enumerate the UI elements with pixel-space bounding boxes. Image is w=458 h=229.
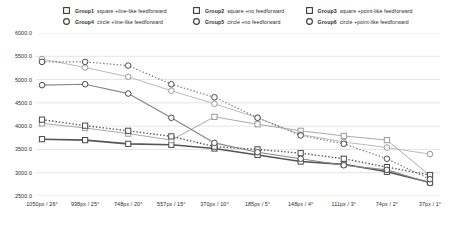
data-point xyxy=(39,59,45,65)
data-point xyxy=(125,91,131,97)
legend-desc-group1: square +line-like feedforward xyxy=(97,8,167,14)
line-chart: Group1 square +line-like feedforward Gro… xyxy=(0,0,458,229)
data-point xyxy=(83,123,88,128)
legend-label-group5: Group5 xyxy=(205,19,224,25)
data-point xyxy=(298,151,303,156)
chart-legend: Group1 square +line-like feedforward Gro… xyxy=(62,5,422,27)
series-line xyxy=(42,117,430,176)
y-tick-label: 6000.0 xyxy=(0,30,32,36)
legend-item-group4[interactable]: Group4 circle +line-like feedforward xyxy=(62,16,192,27)
data-point xyxy=(255,115,261,121)
x-tick-label: 370px / 10° xyxy=(192,201,236,207)
legend-item-group6[interactable]: Group6 circle +point-like feedforward xyxy=(305,16,422,27)
data-point xyxy=(212,140,218,146)
data-point xyxy=(212,101,218,107)
y-tick-label: 4500.0 xyxy=(0,100,32,106)
square-marker-icon xyxy=(62,6,71,15)
square-marker-icon xyxy=(305,6,314,15)
x-tick-label: 557px / 15° xyxy=(149,201,193,207)
circle-marker-icon xyxy=(62,17,71,26)
y-tick-label: 5000.0 xyxy=(0,77,32,83)
y-tick-label: 3500.0 xyxy=(0,146,32,152)
circle-marker-icon xyxy=(305,17,314,26)
x-tick-label: 74px / 2° xyxy=(365,201,409,207)
data-point xyxy=(384,138,389,143)
x-tick-label: 185px / 5° xyxy=(236,201,280,207)
legend-desc-group4: circle +line-like feedforward xyxy=(97,19,163,25)
x-axis-labels: 1050px / 26°938px / 25°748px / 20°557px … xyxy=(0,197,458,211)
legend-desc-group6: circle +point-like feedforward xyxy=(340,19,409,25)
legend-row-top: Group1 square +line-like feedforward Gro… xyxy=(62,5,422,16)
y-tick-label: 3000.0 xyxy=(0,170,32,176)
y-tick-label: 4000.0 xyxy=(0,123,32,129)
x-tick-label: 1050px / 26° xyxy=(20,201,64,207)
data-point xyxy=(212,114,217,119)
legend-item-group5[interactable]: Group5 circle +no feedforward xyxy=(192,16,305,27)
legend-label-group3: Group3 xyxy=(318,8,337,14)
legend-item-group1[interactable]: Group1 square +line-like feedforward xyxy=(62,5,192,16)
data-point xyxy=(298,133,304,139)
series-line xyxy=(42,84,430,183)
x-tick-label: 938px / 25° xyxy=(63,201,107,207)
legend-row-bottom: Group4 circle +line-like feedforward Gro… xyxy=(62,16,422,27)
x-tick-label: 111px / 3° xyxy=(322,201,366,207)
data-point xyxy=(384,145,390,151)
data-point xyxy=(39,137,44,142)
legend-desc-group2: square +no feedforward xyxy=(227,8,284,14)
data-point xyxy=(125,74,131,80)
data-point xyxy=(255,122,260,127)
legend-label-group1: Group1 xyxy=(75,8,94,14)
data-point xyxy=(298,156,304,162)
legend-label-group2: Group2 xyxy=(205,8,224,14)
data-point xyxy=(212,94,218,100)
legend-item-group2[interactable]: Group2 square +no feedforward xyxy=(192,5,305,16)
data-point xyxy=(384,156,390,162)
data-point xyxy=(39,82,45,88)
data-point xyxy=(427,176,433,182)
legend-label-group4: Group4 xyxy=(75,19,94,25)
data-point xyxy=(341,133,346,138)
data-point xyxy=(169,88,175,94)
x-tick-label: 748px / 20° xyxy=(106,201,150,207)
plot-area xyxy=(36,33,440,196)
data-point xyxy=(39,117,44,122)
data-point xyxy=(82,59,88,65)
data-point xyxy=(341,162,347,168)
x-tick-label: 37px / 1° xyxy=(408,201,452,207)
data-point xyxy=(82,65,88,71)
data-point xyxy=(126,141,131,146)
x-tick-label: 148px / 4° xyxy=(279,201,323,207)
data-point xyxy=(125,63,131,69)
data-point xyxy=(169,81,175,87)
legend-label-group6: Group6 xyxy=(318,19,337,25)
series-line xyxy=(42,59,430,154)
square-marker-icon xyxy=(192,6,201,15)
data-point xyxy=(83,138,88,143)
data-point xyxy=(169,134,174,139)
circle-marker-icon xyxy=(192,17,201,26)
legend-desc-group3: square +point-like feedforward xyxy=(340,8,413,14)
data-point xyxy=(341,141,347,147)
data-point xyxy=(169,115,175,121)
y-tick-label: 5500.0 xyxy=(0,53,32,59)
data-point xyxy=(384,167,390,173)
data-point xyxy=(427,151,433,157)
data-point xyxy=(126,128,131,133)
data-point xyxy=(341,156,346,161)
data-point xyxy=(82,81,88,87)
data-point xyxy=(255,149,261,155)
legend-item-group3[interactable]: Group3 square +point-like feedforward xyxy=(305,5,422,16)
legend-desc-group5: circle +no feedforward xyxy=(227,19,280,25)
series-group1 xyxy=(39,137,432,186)
